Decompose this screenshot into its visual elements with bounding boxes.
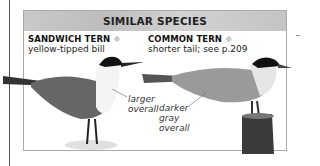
sun-icon: ☼	[113, 35, 120, 44]
species-name-sandwich-tern: SANDWICH TERN ☼	[28, 34, 121, 44]
box-header: SIMILAR SPECIES	[24, 11, 286, 31]
annotation-pointer	[112, 89, 128, 99]
sun-icon: ☼	[225, 35, 232, 44]
species-name-common-tern: COMMON TERN ☼	[148, 34, 232, 44]
similar-species-box: SIMILAR SPECIES SANDWICH TERN ☼ yellow-t…	[23, 10, 287, 151]
annotation-line: darker	[159, 103, 190, 113]
annotation-pointer	[189, 93, 207, 107]
annotation-line: overall	[159, 123, 190, 133]
box-title: SIMILAR SPECIES	[24, 11, 286, 31]
species-desc-common-tern: shorter tail; see p.209	[148, 44, 248, 54]
species-name-text: COMMON TERN	[148, 34, 222, 44]
margin-mark	[296, 35, 300, 36]
annotation-common-tern: darker gray overall	[159, 103, 190, 133]
species-name-text: SANDWICH TERN	[28, 34, 110, 44]
annotation-line: gray	[159, 113, 190, 123]
